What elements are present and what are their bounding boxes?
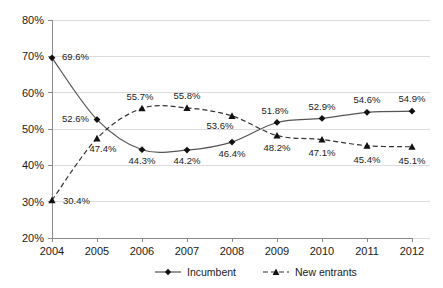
y-axis-tick-label: 50% — [22, 123, 44, 135]
data-label: 47.1% — [309, 147, 336, 158]
x-axis-tick-label: 2005 — [85, 245, 109, 257]
data-point-marker — [229, 139, 236, 146]
data-point-marker — [184, 147, 191, 154]
chart-legend: IncumbentNew entrants — [155, 266, 357, 278]
x-axis-tick-label: 2012 — [400, 245, 424, 257]
x-axis-tick-label: 2009 — [265, 245, 289, 257]
data-point-marker — [409, 108, 416, 115]
x-axis-tick-label: 2008 — [220, 245, 244, 257]
data-label: 30.4% — [63, 195, 90, 206]
x-axis-tick-label: 2004 — [40, 245, 64, 257]
y-axis-tick-label: 30% — [22, 196, 44, 208]
data-point-marker — [364, 109, 371, 116]
y-axis-tick-label: 40% — [22, 159, 44, 171]
data-point-marker — [139, 146, 146, 153]
y-axis-tick-label: 60% — [22, 87, 44, 99]
x-axis-tick-label: 2006 — [130, 245, 154, 257]
x-axis-tick-label: 2011 — [355, 245, 379, 257]
legend-label-1: Incumbent — [187, 266, 236, 278]
data-point-marker — [274, 119, 281, 126]
data-label: 46.4% — [219, 148, 246, 159]
x-axis: 200420052006200720082009201020112012 — [40, 238, 424, 257]
data-label: 52.9% — [309, 101, 336, 112]
data-label: 52.6% — [62, 113, 89, 124]
line-chart: 20%30%40%50%60%70%80% 200420052006200720… — [0, 0, 443, 288]
data-label: 48.2% — [264, 142, 291, 153]
data-label: 44.3% — [129, 155, 156, 166]
data-label: 53.6% — [207, 120, 234, 131]
data-label: 55.8% — [174, 90, 201, 101]
data-label: 44.2% — [174, 155, 201, 166]
data-point-marker — [93, 135, 100, 142]
data-label: 47.4% — [90, 143, 117, 154]
y-axis-tick-label: 70% — [22, 50, 44, 62]
data-point-marker — [319, 115, 326, 122]
data-label: 54.9% — [399, 93, 426, 104]
data-label: 45.4% — [354, 154, 381, 165]
x-axis-tick-label: 2007 — [175, 245, 199, 257]
y-axis-tick-label: 80% — [22, 14, 44, 26]
chart-container: 20%30%40%50%60%70%80% 200420052006200720… — [0, 0, 443, 288]
data-label: 51.8% — [262, 105, 289, 116]
data-label: 69.6% — [62, 51, 89, 62]
y-axis-tick-label: 20% — [22, 232, 44, 244]
legend-label-2: New entrants — [295, 266, 357, 278]
data-point-marker — [138, 105, 145, 112]
legend-marker-1 — [165, 269, 171, 275]
y-axis: 20%30%40%50%60%70%80% — [22, 14, 52, 244]
gridlines — [52, 20, 430, 238]
data-label: 54.6% — [354, 94, 381, 105]
data-label: 45.1% — [399, 155, 426, 166]
data-label: 55.7% — [127, 91, 154, 102]
x-axis-tick-label: 2010 — [310, 245, 334, 257]
